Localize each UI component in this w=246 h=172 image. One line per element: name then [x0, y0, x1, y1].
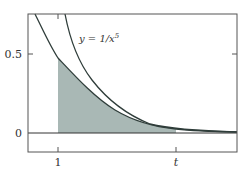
shaded-area — [58, 58, 176, 133]
curve-label: y = 1/x5 — [78, 32, 120, 44]
chart: 0.5 0 1 t y = 1/x5 — [0, 0, 246, 172]
y-tick-label-0.5: 0.5 — [5, 48, 23, 61]
x-tick-label-1: 1 — [55, 156, 62, 169]
x-tick-label-t: t — [174, 156, 179, 169]
y-tick-label-0: 0 — [15, 127, 22, 140]
